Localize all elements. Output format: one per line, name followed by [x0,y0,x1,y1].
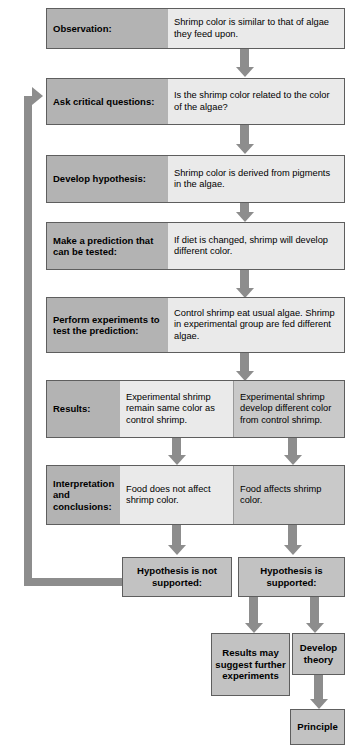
arrow-stem-interpretation-to-supported [288,525,297,546]
step-box-ask-questions: Ask critical questions: Is the shrimp co… [46,78,345,125]
terminal-box-further-experiments: Results may suggest further experiments [211,633,290,696]
arrow-stem-questions-to-hypothesis [240,125,249,145]
step-box-make-prediction: Make a prediction that can be tested: If… [46,222,345,270]
step-detail-develop-hypothesis: Shrimp color is derived from pigments in… [168,156,344,202]
interpretation-right: Food affects shrimp color. [233,466,344,524]
step-label-results: Results: [47,381,120,437]
step-label-make-prediction: Make a prediction that can be tested: [47,223,168,269]
arrow-stem-interpretation-to-not-supported [172,525,181,546]
arrow-stem-supported-to-develop-theory [310,597,319,624]
arrow-head-interpretation-to-not-supported-icon [168,545,186,555]
arrow-stem-prediction-to-experiments [240,270,249,289]
step-detail-ask-questions: Is the shrimp color related to the color… [168,79,344,124]
arrow-stem-supported-to-further-experiments [249,597,258,624]
step-detail-make-prediction: If diet is changed, shrimp will develop … [168,223,344,269]
terminal-box-develop-theory: Develop theory [292,633,345,675]
outcome-box-hypothesis-supported: Hypothesis is supported: [238,557,345,597]
arrow-stem-results-to-interpretation-left [172,438,181,456]
results-outcome-right: Experimental shrimp develop different co… [233,381,344,437]
arrow-stem-theory-to-principle [314,675,323,700]
arrow-head-observation-to-questions-icon [236,67,254,77]
arrow-head-supported-to-further-experiments-icon [245,623,263,633]
feedback-loop-horizontal-line [24,578,124,586]
arrow-head-questions-to-hypothesis-icon [236,144,254,154]
step-box-develop-hypothesis: Develop hypothesis: Shrimp color is deri… [46,155,345,203]
step-box-perform-experiments: Perform experiments to test the predicti… [46,297,345,353]
step-box-interpretation: Interpretation and conclusions: Food doe… [46,465,345,525]
scientific-method-flowchart: Observation: Shrimp color is similar to … [0,0,359,752]
step-label-develop-hypothesis: Develop hypothesis: [47,156,168,202]
arrow-head-interpretation-to-supported-icon [284,545,302,555]
arrow-head-results-to-interpretation-right-icon [284,455,302,465]
arrow-stem-results-to-interpretation-right [288,438,297,456]
step-box-observation: Observation: Shrimp color is similar to … [46,8,345,49]
feedback-loop-arrowhead-icon [32,87,43,105]
step-detail-perform-experiments: Control shrimp eat usual algae. Shrimp i… [168,298,344,352]
step-box-results: Results: Experimental shrimp remain same… [46,380,345,438]
step-label-interpretation: Interpretation and conclusions: [47,466,120,524]
feedback-loop-vertical-line [24,96,32,586]
terminal-box-principle: Principle [290,709,345,745]
arrow-head-hypothesis-to-prediction-icon [236,212,254,222]
arrow-stem-observation-to-questions [240,49,249,68]
step-label-perform-experiments: Perform experiments to test the predicti… [47,298,168,352]
step-label-ask-questions: Ask critical questions: [47,79,168,124]
arrow-stem-experiments-to-results [240,353,249,372]
results-outcome-left: Experimental shrimp remain same color as… [120,381,233,437]
step-detail-observation: Shrimp color is similar to that of algae… [168,9,344,48]
arrow-head-theory-to-principle-icon [310,699,328,709]
arrow-head-supported-to-develop-theory-icon [306,623,324,633]
step-label-observation: Observation: [47,9,168,48]
outcome-box-hypothesis-not-supported: Hypothesis is not supported: [122,557,232,597]
arrow-head-results-to-interpretation-left-icon [168,455,186,465]
interpretation-left: Food does not affect shrimp color. [120,466,233,524]
